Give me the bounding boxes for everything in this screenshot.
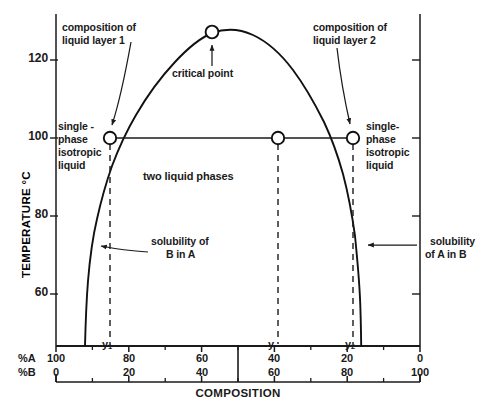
leader-comp-layer-2 [337,48,350,124]
annotation-composition-layer-1-line2: liquid layer 1 [62,35,125,47]
annotation-composition-layer-2-line1: composition of [313,22,387,34]
y-tick-label-100: 100 [12,130,48,143]
annotation-solubility-b-in-a-line2: B in A [166,249,195,261]
annotation-composition-layer-2-line2: liquid layer 2 [313,35,376,47]
annotation-critical-point: critical point [172,68,233,80]
annotation-single-phase-left-line3: isotropic [58,147,101,159]
annotation-solubility-a-in-b-line1: solubility [430,236,475,248]
tie-line-label-y1-subscript: 1 [108,342,112,351]
annotation-solubility-a-in-b-line2: of A in B [425,249,466,261]
y-tick-label-60: 60 [12,286,48,299]
x-row-b-tick-60: 60 [259,366,289,378]
x-row-b-tick-80: 80 [332,366,362,378]
marker-overall-composition [272,132,284,144]
annotation-composition-layer-1-line1: composition of [62,22,136,34]
x-row-a-tick-60: 60 [187,352,217,364]
annotation-single-phase-right-line3: isotropic [366,147,409,159]
x-row-b-name: %B [18,366,36,378]
annotation-single-phase-right-line4: liquid [366,160,393,172]
tie-line-label-y2-subscript: 2 [351,342,355,351]
annotation-single-phase-left-line4: liquid [58,160,85,172]
y-tick-label-120: 120 [12,52,48,65]
annotation-single-phase-right-line1: single- [366,121,399,133]
annotation-single-phase-left-line1: single - [58,121,94,133]
y-tick-marks [50,60,420,294]
leader-solubility-b-in-a [101,246,148,252]
x-row-b-tick-100: 100 [405,366,435,378]
tie-line-label-y2: y2 [339,326,355,352]
x-row-a-name: %A [18,352,36,364]
annotation-single-phase-right-line2: phase [366,134,396,146]
x-row-b-tick-40: 40 [187,366,217,378]
x-row-b-tick-0: 0 [41,366,71,378]
leader-comp-layer-1 [112,42,131,125]
marker-liquid-layer-2 [347,132,359,144]
phase-diagram-figure [0,0,486,412]
annotation-single-phase-left-line2: phase [58,134,88,146]
x-row-a-tick-20: 20 [332,352,362,364]
x-row-a-tick-0: 0 [405,352,435,364]
marker-liquid-layer-1 [104,132,116,144]
tie-line-label-y1: y1 [96,326,112,352]
x-row-a-tick-40: 40 [259,352,289,364]
y-axis-title: TEMPERATURE °C [20,171,32,278]
annotation-two-liquid-phases: two liquid phases [143,170,234,182]
x-row-a-tick-100: 100 [41,352,71,364]
annotation-solubility-b-in-a-line1: solubility of [151,236,209,248]
x-row-a-tick-80: 80 [114,352,144,364]
x-row-b-tick-20: 20 [114,366,144,378]
y-tick-label-80: 80 [12,208,48,221]
x-axis-title: COMPOSITION [178,387,298,400]
tie-line-label-y: y [262,326,274,352]
tie-line-label-y-base: y [268,338,274,350]
marker-critical-point [206,26,219,39]
